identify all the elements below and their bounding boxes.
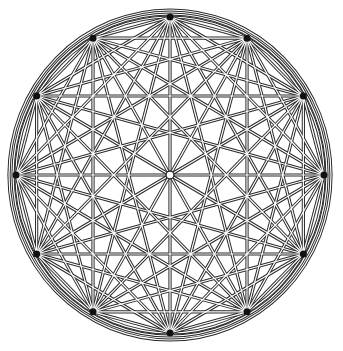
- vertex-dot: [33, 93, 40, 100]
- vertex-dot: [244, 35, 251, 42]
- complete-graph-figure: [0, 0, 343, 351]
- vertex-dot: [244, 308, 251, 315]
- center-circle: [166, 171, 174, 179]
- vertex-dot: [167, 330, 174, 337]
- vertex-dot: [300, 251, 307, 258]
- vertex-dot: [321, 172, 328, 179]
- center-circle-shape: [166, 171, 174, 179]
- vertex-dot: [300, 93, 307, 100]
- vertex-dot: [90, 35, 97, 42]
- vertex-dot: [90, 308, 97, 315]
- vertex-dot: [167, 14, 174, 21]
- vertex-dot: [33, 251, 40, 258]
- k12-graph-diagram: [0, 0, 343, 351]
- vertex-dot: [13, 172, 20, 179]
